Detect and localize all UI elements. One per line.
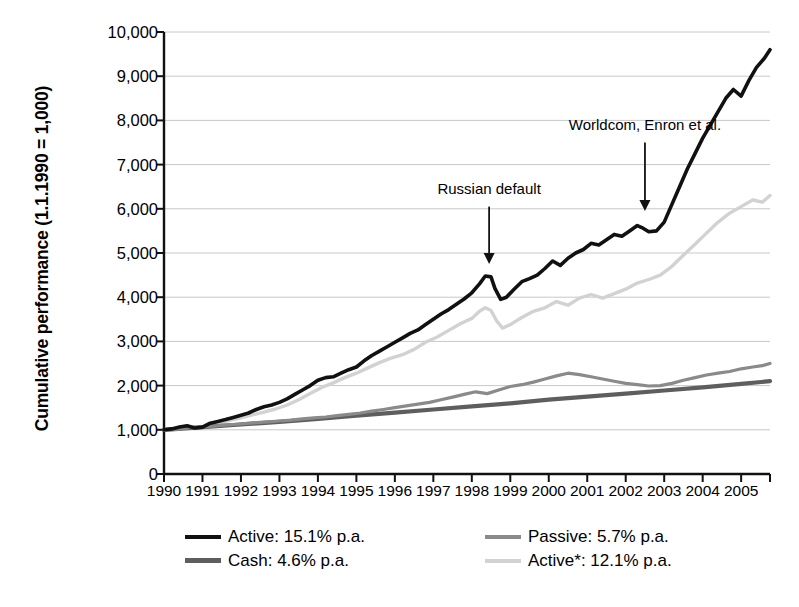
y-tick-label: 10,000 [80, 23, 158, 42]
series-line-passive [164, 364, 770, 430]
y-axis-title: Cumulative performance (1.1.1990 = 1,000… [32, 49, 53, 469]
x-tick-label: 1995 [339, 482, 373, 500]
x-tick-label: 2000 [532, 482, 566, 500]
legend-swatch-icon [485, 559, 521, 563]
legend-item-active-star[interactable]: Active*: 12.1% p.a. [485, 552, 745, 569]
x-tick-label: 2003 [647, 482, 681, 500]
x-tick-label: 1993 [262, 482, 296, 500]
x-tick-label: 1997 [416, 482, 450, 500]
y-tick-label: 5,000 [80, 244, 158, 263]
legend-item-passive[interactable]: Passive: 5.7% p.a. [485, 528, 745, 545]
x-tick-label: 2002 [608, 482, 642, 500]
y-tick-label: 9,000 [80, 67, 158, 86]
legend-item-cash[interactable]: Cash: 4.6% p.a. [185, 552, 485, 569]
y-tick-label: 2,000 [80, 376, 158, 395]
x-tick-label: 1998 [455, 482, 489, 500]
y-tick-label: 4,000 [80, 288, 158, 307]
chart-legend: Active: 15.1% p.a.Passive: 5.7% p.a.Cash… [185, 528, 745, 569]
chart-container: Cumulative performance (1.1.1990 = 1,000… [0, 0, 799, 607]
x-tick-label: 1990 [147, 482, 181, 500]
x-tick-label: 1994 [301, 482, 335, 500]
x-tick-label: 2001 [570, 482, 604, 500]
y-tick-label: 0 [80, 465, 158, 484]
legend-label: Active*: 12.1% p.a. [528, 552, 672, 569]
y-tick-label: 7,000 [80, 155, 158, 174]
legend-item-active[interactable]: Active: 15.1% p.a. [185, 528, 485, 545]
legend-swatch-icon [185, 558, 221, 562]
x-tick-label: 1999 [493, 482, 527, 500]
legend-label: Cash: 4.6% p.a. [228, 552, 349, 569]
legend-label: Active: 15.1% p.a. [228, 528, 365, 545]
annotation-label: Russian default [437, 180, 540, 197]
annotation-arrow-head [639, 200, 650, 211]
x-tick-label: 1996 [378, 482, 412, 500]
legend-swatch-icon [185, 535, 221, 539]
y-tick-label: 8,000 [80, 111, 158, 130]
y-tick-label: 6,000 [80, 199, 158, 218]
legend-label: Passive: 5.7% p.a. [528, 528, 669, 545]
legend-swatch-icon [485, 535, 521, 539]
x-tick-label: 2005 [724, 482, 758, 500]
y-tick-label: 3,000 [80, 332, 158, 351]
series-line-active [164, 50, 770, 430]
x-tick-label: 1991 [185, 482, 219, 500]
x-tick-label: 2004 [685, 482, 719, 500]
y-axis-tick-labels: 10,0009,0008,0007,0006,0005,0004,0003,00… [80, 0, 158, 607]
y-tick-label: 1,000 [80, 420, 158, 439]
x-tick-label: 1992 [224, 482, 258, 500]
annotation-label: Worldcom, Enron et al. [569, 116, 721, 133]
annotation-arrow-head [484, 253, 495, 264]
